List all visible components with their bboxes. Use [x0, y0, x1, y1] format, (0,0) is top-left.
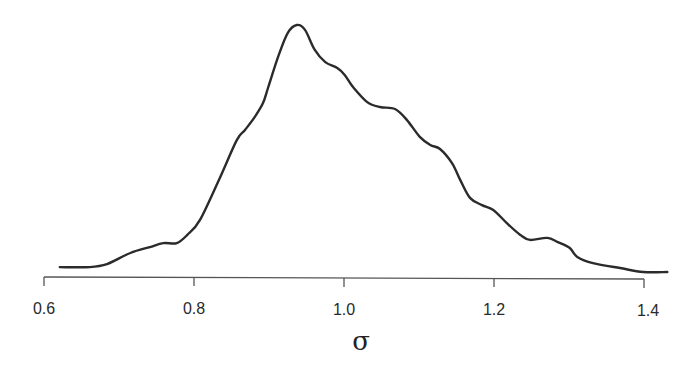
density-chart: 0.6 0.8 1.0 1.2 1.4 σ	[0, 0, 689, 373]
plot-area	[60, 25, 668, 272]
density-curve	[60, 25, 668, 272]
x-tick-label-1: 0.8	[183, 300, 205, 317]
x-axis-title: σ	[352, 326, 370, 356]
x-axis: 0.6 0.8 1.0 1.2 1.4 σ	[33, 277, 659, 356]
x-tick-label-3: 1.2	[483, 301, 505, 318]
x-tick-label-2: 1.0	[333, 301, 355, 318]
x-tick-label-0: 0.6	[33, 300, 55, 317]
x-tick-label-4: 1.4	[637, 302, 659, 319]
